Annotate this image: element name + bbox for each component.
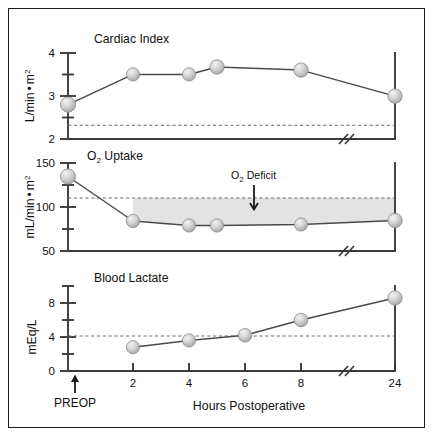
y-tick-label: 100 [36,201,55,213]
panel-title-main: O [87,149,96,163]
y-axis-title-dot: • [23,86,37,90]
x-tick-label: 8 [298,377,304,389]
svg-text:mL/min•m2: mL/min•m2 [23,175,37,238]
y-axis-title-dot: • [23,192,37,196]
data-point [126,214,139,227]
data-point [182,68,195,81]
panel-title: O2 Uptake [87,149,143,165]
o2-deficit-shading [133,198,395,226]
data-point [182,219,195,232]
data-point [210,60,224,74]
panel-blood-lactate: 8 4 0 2 4 6 8 24 Blood Lactate PREOP Hou… [9,267,418,427]
preop-arrow-icon [71,375,79,394]
x-axis-title: Hours Postoperative [193,399,305,413]
y-tick-label: 0 [49,365,55,377]
data-point [126,341,139,354]
data-point [388,213,402,227]
data-point [388,291,402,305]
y-tick-label: 2 [49,133,55,145]
o2-deficit-annotation: O2 Deficit [231,169,276,184]
panel-title-rest: Uptake [101,149,143,163]
data-markers [126,291,402,354]
y-axis-title: mEq/L [25,319,39,354]
y-axis-title: mL/min•m2 [23,175,37,238]
x-tick-label: 24 [389,377,402,389]
figure-frame: 4 3 2 Cardiac Index L/min•m2 [8,8,425,428]
panel-cardiac-index: 4 3 2 Cardiac Index L/min•m2 [9,31,418,164]
y-axis-title-text: mEq/L [25,319,39,354]
y-axis-title-unit: m [23,74,37,84]
data-point [294,313,308,327]
svg-text:L/min•m2: L/min•m2 [23,69,37,122]
data-point [182,334,195,347]
panel-title: Cardiac Index [94,32,169,46]
y-axis-title-exp: 2 [23,175,32,180]
data-point [60,97,75,112]
y-axis-title-pre: mL/min [23,198,37,238]
y-tick-label: 4 [49,47,56,59]
data-point [294,63,308,77]
y-axis-title-pre: L/min [23,93,37,123]
data-point [126,68,139,81]
y-tick-label: 50 [42,245,55,257]
y-tick-label: 150 [36,157,55,169]
y-axis-title-unit: m [23,180,37,190]
data-series-line [68,67,395,105]
data-point [210,219,223,232]
data-point [238,329,252,343]
panel-o2-uptake: 150 100 50 O2 Uptake O2 Deficit mL/min•m… [9,149,418,274]
x-tick-label: 2 [130,377,136,389]
data-point [294,218,307,231]
y-axis-title-exp: 2 [23,69,32,74]
preop-label: PREOP [54,396,96,410]
x-tick-label: 6 [242,377,248,389]
panel-title: Blood Lactate [94,271,169,285]
y-tick-label: 4 [49,331,56,343]
data-point [388,89,402,103]
data-series-line [133,298,395,347]
annotation-rest: Deficit [244,169,276,181]
deficit-arrow-icon [250,185,258,210]
y-tick-label: 8 [49,297,55,309]
data-point [60,169,75,184]
figure-container: 4 3 2 Cardiac Index L/min•m2 [0,0,435,438]
x-tick-label: 4 [186,377,193,389]
annotation-main: O [231,169,239,181]
y-axis-title: L/min•m2 [23,69,37,122]
y-tick-label: 3 [49,90,55,102]
